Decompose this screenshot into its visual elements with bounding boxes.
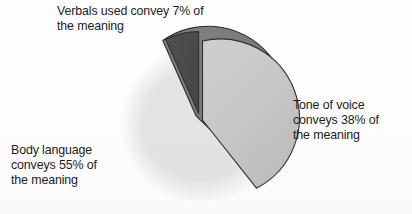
slice-label-body-language: Body language conveys 55% of the meaning — [11, 143, 97, 189]
slice-label-verbals: Verbals used convey 7% of the meaning — [57, 4, 203, 34]
pie-chart-figure: Verbals used convey 7% of the meaning To… — [0, 0, 412, 214]
slice-label-tone-of-voice: Tone of voice conveys 38% of the meaning — [293, 98, 379, 144]
